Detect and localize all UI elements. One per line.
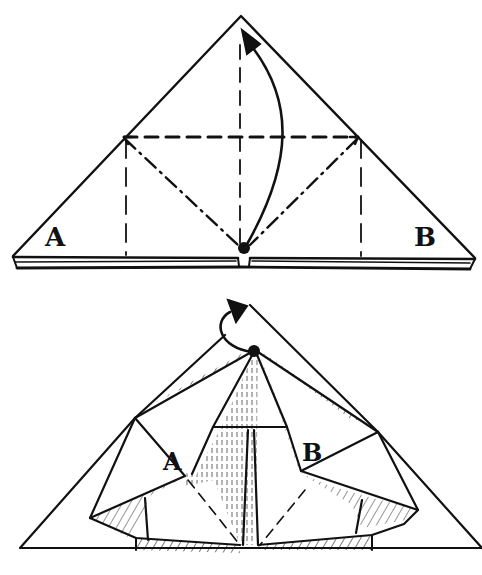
reference-dot-2: [248, 345, 260, 357]
label-b-step2: B: [302, 438, 322, 467]
step-2-diagram: A B: [0, 0, 482, 575]
loop-arrowhead-icon: [228, 300, 247, 322]
origami-diagram: A B: [0, 0, 482, 575]
hidden-edge-right: [260, 490, 305, 545]
label-a-step2: A: [162, 447, 182, 476]
